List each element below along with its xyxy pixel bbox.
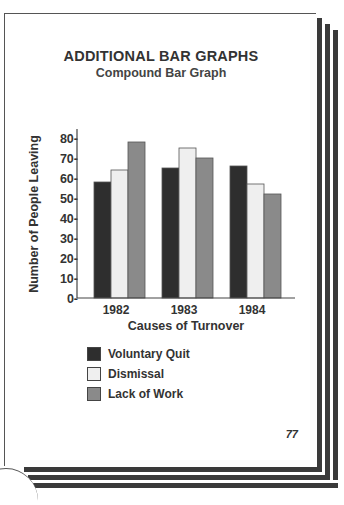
page-stack-right-1 (317, 18, 322, 470)
y-tick-label: 0- (67, 292, 78, 306)
page-stack-bottom-1 (24, 467, 322, 472)
bar-1984-voluntary-quit (230, 166, 247, 298)
legend-label: Lack of Work (108, 387, 183, 401)
bar-1983-lack-of-work (196, 158, 213, 298)
x-tick-label: 1984 (239, 303, 266, 317)
y-axis-label: Number of People Leaving (27, 135, 41, 293)
legend-swatch-voluntary-quit (87, 347, 101, 361)
y-tick-label: 70- (60, 152, 78, 166)
y-tick-label: 80- (60, 132, 78, 146)
legend-item-voluntary-quit: Voluntary Quit (87, 344, 190, 364)
bar-1982-dismissal (111, 170, 128, 298)
bar-1982-voluntary-quit (94, 182, 111, 298)
legend-swatch-dismissal (87, 367, 101, 381)
bar-1984-dismissal (247, 184, 264, 298)
page-stack-right-2 (325, 24, 330, 476)
y-tick-label: 50- (60, 192, 78, 206)
x-tick-label: 1983 (171, 303, 198, 317)
page-number: 77 (286, 428, 298, 440)
page-stack-right-3 (333, 30, 338, 480)
bar-chart: 0-10-20-30-40-50-60-70-80- 198219831984 … (1, 1, 313, 331)
y-tick-label: 40- (60, 212, 78, 226)
page-corner-cutout (0, 468, 38, 505)
y-tick-label: 60- (60, 172, 78, 186)
legend-swatch-lack-of-work (87, 387, 101, 401)
bar-1983-voluntary-quit (162, 168, 179, 298)
x-axis-label: Causes of Turnover (128, 319, 245, 331)
book-page: ADDITIONAL BAR GRAPHS Compound Bar Graph… (4, 13, 316, 466)
legend-item-lack-of-work: Lack of Work (87, 384, 190, 404)
bar-1982-lack-of-work (128, 142, 145, 298)
legend-label: Voluntary Quit (108, 347, 190, 361)
page-stack-bottom-2 (28, 475, 330, 480)
y-tick-label: 20- (60, 252, 78, 266)
y-tick-label: 30- (60, 232, 78, 246)
legend-label: Dismissal (108, 367, 164, 381)
bar-1984-lack-of-work (264, 194, 281, 298)
bar-1983-dismissal (179, 148, 196, 298)
x-tick-label: 1982 (103, 303, 130, 317)
legend-item-dismissal: Dismissal (87, 364, 190, 384)
chart-legend: Voluntary Quit Dismissal Lack of Work (87, 344, 190, 404)
page-stack-bottom-3 (32, 483, 338, 488)
y-tick-label: 10- (60, 272, 78, 286)
